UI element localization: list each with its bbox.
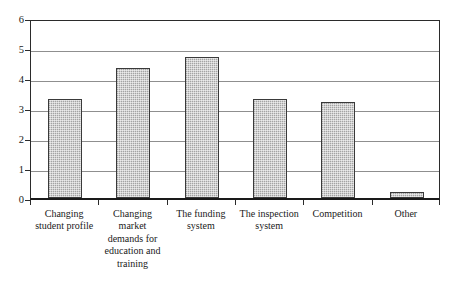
bar bbox=[185, 57, 219, 198]
y-axis-tick-label: 1 bbox=[0, 165, 24, 176]
bar-slot bbox=[31, 21, 99, 198]
x-axis-category-label-line: training bbox=[98, 258, 166, 270]
x-axis-category-label: The fundingsystem bbox=[167, 208, 235, 233]
bar-slot bbox=[373, 21, 441, 198]
plot-area bbox=[30, 20, 440, 200]
x-axis-tick-mark bbox=[98, 200, 99, 205]
x-axis-category-label: Changingmarketdemands foreducation andtr… bbox=[98, 208, 166, 270]
y-axis-tick-label: 6 bbox=[0, 15, 24, 26]
x-axis-category-label: Other bbox=[372, 208, 440, 220]
bar bbox=[116, 68, 150, 199]
bar-slot bbox=[168, 21, 236, 198]
bar bbox=[253, 99, 287, 198]
y-axis-tick-label: 2 bbox=[0, 135, 24, 146]
x-axis-tick-mark bbox=[372, 200, 373, 205]
y-axis-tick-label: 4 bbox=[0, 75, 24, 86]
y-axis: 0123456 bbox=[0, 20, 24, 200]
x-axis-tick-mark bbox=[167, 200, 168, 205]
x-axis-category-label: The inspectionsystem bbox=[235, 208, 303, 233]
x-axis-category-label-line: Competition bbox=[303, 208, 371, 220]
x-axis-category-label-line: student profile bbox=[30, 220, 98, 232]
x-axis-category-label-line: system bbox=[235, 220, 303, 232]
y-axis-tick-label: 5 bbox=[0, 45, 24, 56]
bar bbox=[321, 102, 355, 198]
x-axis-category-label-line: Other bbox=[372, 208, 440, 220]
x-axis-category-label-line: Changing bbox=[30, 208, 98, 220]
bar bbox=[390, 192, 424, 198]
x-axis-category-labels: Changingstudent profileChangingmarketdem… bbox=[30, 208, 440, 293]
x-axis-category-label-line: education and bbox=[98, 245, 166, 257]
bar-slot bbox=[236, 21, 304, 198]
bar-slot bbox=[304, 21, 372, 198]
x-axis-tick-mark bbox=[235, 200, 236, 205]
x-axis-category-label: Competition bbox=[303, 208, 371, 220]
x-axis-category-label-line: The funding bbox=[167, 208, 235, 220]
x-axis-category-label: Changingstudent profile bbox=[30, 208, 98, 233]
x-axis-tick-mark bbox=[30, 200, 31, 205]
x-axis-category-label-line: system bbox=[167, 220, 235, 232]
x-axis-category-label-line: The inspection bbox=[235, 208, 303, 220]
x-axis-tick-mark bbox=[303, 200, 304, 205]
x-axis-tick-mark bbox=[439, 200, 440, 205]
x-axis-category-label-line: Changing bbox=[98, 208, 166, 220]
bar-chart-figure: 0123456 Changingstudent profileChangingm… bbox=[0, 0, 457, 295]
y-axis-tick-label: 0 bbox=[0, 195, 24, 206]
x-axis-category-label-line: demands for bbox=[98, 233, 166, 245]
y-axis-tick-label: 3 bbox=[0, 105, 24, 116]
bar-slot bbox=[99, 21, 167, 198]
bar bbox=[48, 99, 82, 198]
x-axis-tickmarks bbox=[30, 200, 440, 205]
x-axis-category-label-line: market bbox=[98, 220, 166, 232]
